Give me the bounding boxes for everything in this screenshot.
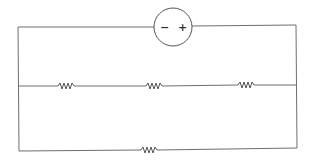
- resistor-r2: [146, 83, 162, 89]
- bottom-branch: [19, 147, 297, 153]
- wire-left: [18, 27, 19, 151]
- battery-positive-label: +: [178, 21, 187, 34]
- resistor-r3: [238, 82, 254, 88]
- wire-top-right: [192, 25, 296, 26]
- middle-branch: [18, 82, 296, 89]
- circuit-diagram: − +: [0, 0, 312, 162]
- battery-negative-label: −: [160, 21, 169, 34]
- battery: − +: [154, 8, 192, 46]
- resistor-r4: [141, 147, 157, 153]
- resistor-r1: [58, 83, 74, 89]
- wire-right: [296, 25, 297, 148]
